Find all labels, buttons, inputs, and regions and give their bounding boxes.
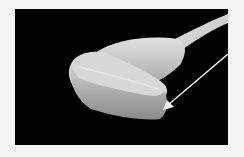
probe-illustration	[15, 9, 228, 145]
probe-photo	[15, 9, 228, 145]
